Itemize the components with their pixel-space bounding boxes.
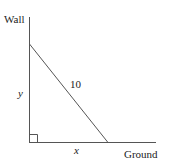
ladder-diagram	[0, 0, 170, 162]
x-label: x	[74, 145, 79, 156]
y-label: y	[18, 88, 23, 99]
ladder-line	[30, 44, 109, 143]
wall-label: Wall	[4, 14, 25, 25]
ground-label: Ground	[124, 149, 158, 160]
right-angle-marker	[30, 135, 38, 143]
hypotenuse-label: 10	[70, 79, 81, 90]
